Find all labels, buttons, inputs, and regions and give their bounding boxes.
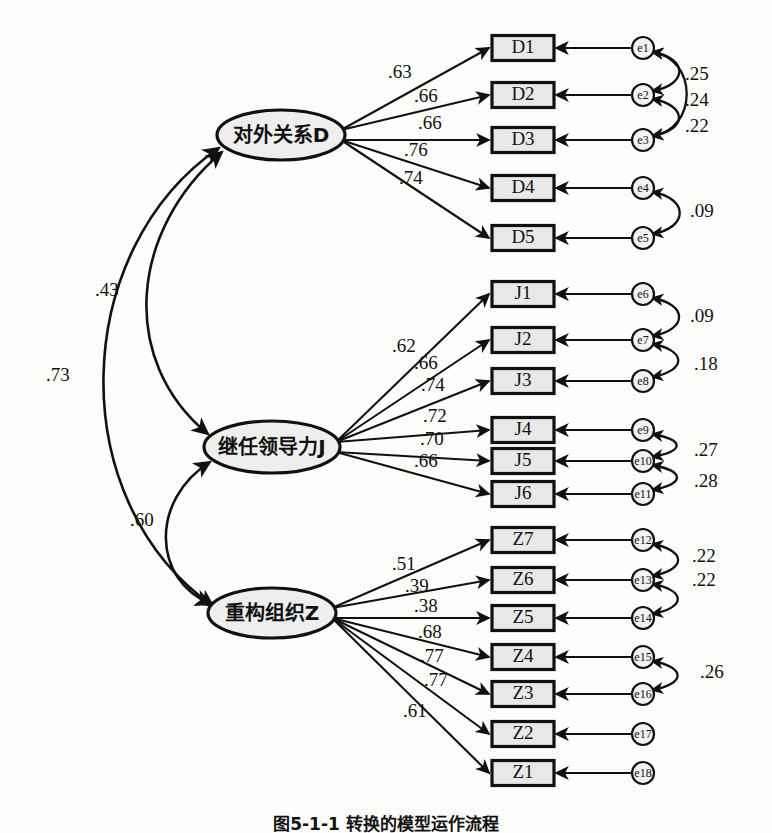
error-label-e14: e14 (634, 611, 651, 625)
error-term-e11[interactable]: e11 (632, 483, 654, 505)
indicator-Z7[interactable]: Z7 (492, 528, 554, 553)
error-label-e10: e10 (634, 454, 651, 468)
error-label-e1: e1 (637, 41, 648, 55)
loading-value-Z-Z2: .77 (424, 669, 448, 690)
error-term-e10[interactable]: e10 (632, 450, 654, 472)
indicator-D3[interactable]: D3 (492, 128, 554, 153)
error-term-e18[interactable]: e18 (632, 762, 654, 784)
indicator-label-J5: J5 (515, 449, 532, 470)
error-label-e13: e13 (634, 573, 651, 587)
error-corr-arc-e13-e14 (652, 584, 678, 614)
factor-label-J: 继任领导力J (218, 435, 325, 459)
loading-value-J-J3: .74 (421, 374, 445, 395)
loading-value-D-D1: .63 (388, 61, 412, 82)
indicator-label-Z3: Z3 (512, 682, 533, 703)
indicator-Z1[interactable]: Z1 (492, 761, 554, 786)
latent-factor-J[interactable]: 继任领导力J (204, 421, 340, 473)
indicator-box-group: D1D2D3D4D5J1J2J3J4J5J6Z7Z6Z5Z4Z3Z2Z1 (492, 36, 554, 786)
error-corr-value-e15-e16: .26 (700, 661, 724, 682)
error-term-e7[interactable]: e7 (632, 329, 654, 351)
error-circle-group: e1e2e3e4e5e6e7e8e9e10e11e12e13e14e15e16e… (632, 37, 654, 784)
error-label-e5: e5 (637, 231, 648, 245)
error-corr-arc-e7-e8 (652, 344, 678, 377)
indicator-Z6[interactable]: Z6 (492, 568, 554, 593)
error-term-e13[interactable]: e13 (632, 569, 654, 591)
latent-factor-D[interactable]: 对外关系D (217, 110, 345, 160)
indicator-J5[interactable]: J5 (492, 449, 554, 474)
indicator-D5[interactable]: D5 (492, 226, 554, 251)
error-label-e8: e8 (637, 374, 648, 388)
indicator-D2[interactable]: D2 (492, 83, 554, 108)
indicator-J4[interactable]: J4 (492, 418, 554, 443)
error-term-e14[interactable]: e14 (632, 607, 654, 629)
error-label-e6: e6 (637, 287, 648, 301)
error-term-e17[interactable]: e17 (632, 723, 654, 745)
error-corr-value-e4-e5: .09 (690, 200, 714, 221)
indicator-label-J1: J1 (515, 282, 532, 303)
factor-corr-arc-J-Z (166, 462, 211, 604)
error-label-e12: e12 (634, 533, 651, 547)
error-corr-value-e9-e10: .27 (694, 439, 718, 460)
loading-value-D-D4: .76 (404, 139, 428, 160)
indicator-label-Z1: Z1 (512, 761, 533, 782)
error-term-e4[interactable]: e4 (632, 177, 654, 199)
indicator-J6[interactable]: J6 (492, 482, 554, 507)
loading-value-J-J4: .72 (423, 405, 447, 426)
error-label-e16: e16 (634, 687, 651, 701)
indicator-Z5[interactable]: Z5 (492, 606, 554, 631)
error-term-e15[interactable]: e15 (632, 646, 654, 668)
error-term-e12[interactable]: e12 (632, 529, 654, 551)
sem-diagram-canvas: D1D2D3D4D5J1J2J3J4J5J6Z7Z6Z5Z4Z3Z2Z1 e1e… (0, 0, 772, 833)
error-corr-arc-e10-e11 (652, 465, 677, 490)
error-corr-arc-e15-e16 (652, 661, 678, 690)
error-label-e11: e11 (635, 487, 652, 501)
error-corr-arc-e2-e3 (652, 99, 679, 136)
loading-value-Z-Z3: .77 (420, 645, 444, 666)
indicator-label-Z6: Z6 (512, 568, 533, 589)
loading-path-Z-to-Z1 (332, 618, 489, 773)
error-term-e6[interactable]: e6 (632, 283, 654, 305)
indicator-Z2[interactable]: Z2 (492, 722, 554, 747)
indicator-J1[interactable]: J1 (492, 282, 554, 307)
error-term-e16[interactable]: e16 (632, 683, 654, 705)
indicator-D1[interactable]: D1 (492, 36, 554, 61)
indicator-label-Z5: Z5 (512, 606, 533, 627)
error-correlation-arc-group (652, 52, 687, 690)
error-corr-value-e10-e11: .28 (694, 470, 718, 491)
loading-path-J-to-J6 (336, 452, 489, 494)
figure-caption: 图5-1-1 转换的模型运作流程 (273, 814, 499, 833)
loading-value-J-J5: .70 (420, 428, 444, 449)
error-corr-arc-e1-e3 (652, 52, 687, 136)
error-label-e17: e17 (634, 727, 651, 741)
indicator-label-D1: D1 (511, 36, 534, 57)
error-corr-arc-e4-e5 (652, 192, 680, 234)
error-term-e2[interactable]: e2 (632, 84, 654, 106)
factor-corr-label-D-J: .43 (95, 279, 119, 300)
latent-factor-Z[interactable]: 重构组织Z (208, 588, 336, 638)
indicator-Z4[interactable]: Z4 (492, 645, 554, 670)
error-corr-value-e1-e3: .22 (685, 115, 709, 136)
factor-label-Z: 重构组织Z (225, 601, 320, 625)
indicator-D4[interactable]: D4 (492, 176, 554, 201)
error-label-e7: e7 (637, 333, 648, 347)
indicator-J2[interactable]: J2 (492, 328, 554, 353)
indicator-J3[interactable]: J3 (492, 369, 554, 394)
factor-corr-label-D-Z: .73 (46, 364, 70, 385)
loading-path-Z-to-Z4 (332, 618, 489, 657)
error-term-e3[interactable]: e3 (632, 129, 654, 151)
error-corr-arc-e6-e7 (652, 298, 679, 336)
factor-correlation-label-group: .43 .73 .60 (46, 279, 154, 530)
indicator-label-J3: J3 (515, 369, 532, 390)
error-term-e8[interactable]: e8 (632, 370, 654, 392)
loading-value-D-D3: .66 (418, 112, 442, 133)
indicator-label-Z4: Z4 (512, 645, 534, 666)
indicator-label-Z7: Z7 (512, 528, 533, 549)
error-term-e9[interactable]: e9 (632, 419, 654, 441)
error-term-e5[interactable]: e5 (632, 227, 654, 249)
error-term-e1[interactable]: e1 (632, 37, 654, 59)
loading-value-label-group: .63.66.66.76.74.62.66.74.72.70.66.51.39.… (388, 61, 448, 721)
loading-path-Z-to-Z3 (332, 618, 489, 694)
indicator-Z3[interactable]: Z3 (492, 682, 554, 707)
indicator-label-Z2: Z2 (512, 722, 533, 743)
error-label-e9: e9 (637, 423, 648, 437)
